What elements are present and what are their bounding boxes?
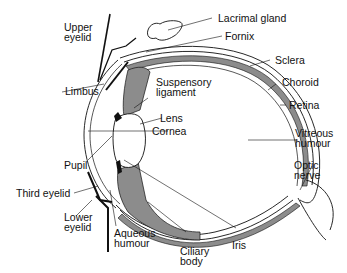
label-sclera: Sclera [275, 55, 305, 65]
label-pupil: Pupil [64, 160, 87, 170]
lacrimal-gland [147, 21, 182, 40]
label-iris: Iris [232, 240, 246, 250]
label-cornea: Cornea [152, 126, 186, 136]
lens [113, 114, 145, 168]
label-third-eyelid: Third eyelid [16, 188, 70, 198]
label-lower-eyelid: Lower eyelid [64, 212, 93, 232]
label-suspensory-ligament: Suspensory ligament [156, 77, 211, 97]
label-retina: Retina [289, 100, 319, 110]
label-upper-eyelid: Upper eyelid [64, 22, 93, 42]
label-lacrimal-gland: Lacrimal gland [218, 13, 286, 23]
label-lens: Lens [160, 113, 183, 123]
label-ciliary-body: Ciliary body [180, 246, 209, 266]
label-optic-nerve: Optic nerve [294, 160, 320, 180]
label-vitreous-humour: Vitreous humour [295, 128, 333, 148]
label-aqueous-humour: Aqueous humour [114, 228, 155, 248]
optic-nerve [298, 180, 333, 240]
ciliary-body [123, 67, 150, 116]
label-choroid: Choroid [282, 77, 319, 87]
label-limbus: Limbus [65, 86, 99, 96]
label-fornix: Fornix [225, 31, 254, 41]
